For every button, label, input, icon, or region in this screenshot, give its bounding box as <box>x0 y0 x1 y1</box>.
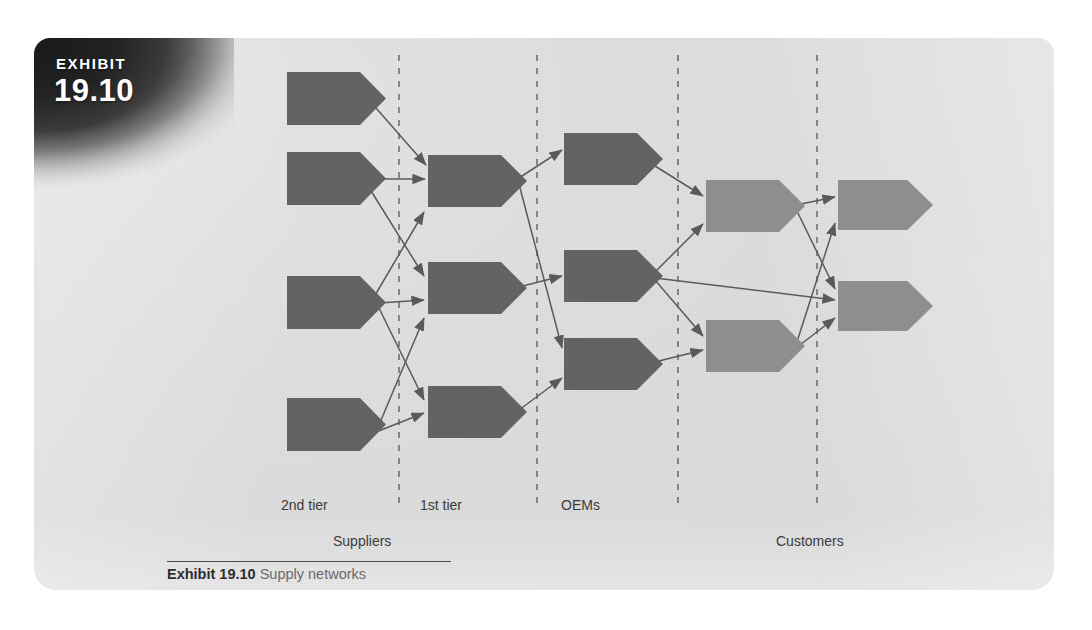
paper-shading-overlay <box>34 38 1054 590</box>
caption-divider-rule <box>167 561 451 562</box>
caption: Exhibit 19.10 Supply networks <box>167 566 366 582</box>
caption-title: Supply networks <box>260 566 366 582</box>
caption-label: Exhibit 19.10 <box>167 566 256 582</box>
tier-label-tier-1st: 1st tier <box>420 497 462 513</box>
exhibit-panel <box>34 38 1054 590</box>
paper-grain-texture <box>34 38 1054 590</box>
group-label-group-customers: Customers <box>776 533 844 549</box>
tier-label-tier-oems: OEMs <box>561 497 600 513</box>
group-label-group-suppliers: Suppliers <box>333 533 391 549</box>
exhibit-tab-number: 19.10 <box>54 75 134 106</box>
exhibit-tab-word: EXHIBIT <box>56 56 126 71</box>
tier-label-tier-2nd: 2nd tier <box>281 497 328 513</box>
